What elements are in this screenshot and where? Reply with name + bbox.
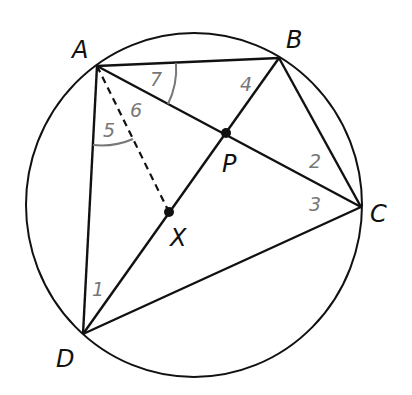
point-p-dot [221,128,231,138]
angle-label-7: 7 [150,68,162,90]
label-c: C [370,200,387,228]
segment-cd [83,207,361,334]
label-a: A [70,36,88,64]
angle-label-2: 2 [309,150,321,172]
segment-ab [97,58,279,66]
angle-arc-7 [168,63,176,104]
label-b: B [286,26,302,54]
angle-label-5: 5 [103,119,115,141]
cyclic-quadrilateral-diagram: A B C D P X 1 2 3 4 5 6 7 [0,0,412,395]
angle-label-1: 1 [92,278,104,300]
angle-label-6: 6 [130,99,142,121]
label-p: P [222,150,237,178]
label-x: X [168,224,187,252]
label-d: D [56,345,74,373]
angle-label-4: 4 [240,73,252,95]
point-x-dot [164,207,174,217]
angle-label-3: 3 [309,193,321,215]
